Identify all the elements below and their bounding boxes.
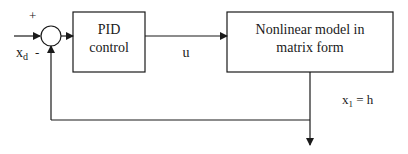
feedback-path [51, 46, 310, 120]
summing-junction [41, 26, 61, 46]
plant-label-line1: Nonlinear model in [256, 22, 365, 37]
output-label: x1 = h [342, 92, 374, 109]
minus-sign: - [35, 45, 39, 60]
nonlinear-model-block: Nonlinear model in matrix form [227, 12, 393, 72]
plus-sign: + [29, 8, 36, 23]
plant-label-line2: matrix form [276, 40, 343, 55]
input-label: xd [16, 45, 28, 62]
pid-control-block: PID control [73, 12, 145, 72]
pid-label-line2: control [89, 40, 129, 55]
pid-control-block-diagram: xd + - PID control u Nonlinear model in … [0, 0, 408, 154]
pid-label-line1: PID [98, 22, 121, 37]
control-signal-label: u [183, 45, 190, 60]
